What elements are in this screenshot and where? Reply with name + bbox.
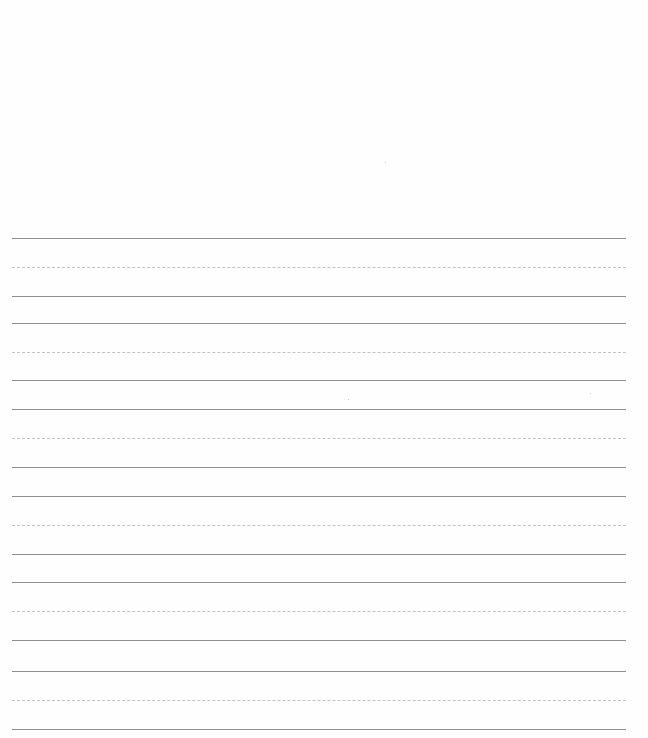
top-line [12,409,626,410]
paper-speck [590,393,591,394]
paper-speck [385,162,386,163]
baseline [12,467,626,468]
baseline [12,296,626,297]
top-line [12,323,626,324]
practice-sheet [0,0,648,738]
midline-guide [12,611,626,612]
top-line [12,671,626,672]
baseline [12,380,626,381]
baseline [12,640,626,641]
midline-guide [12,267,626,268]
midline-guide [12,352,626,353]
midline-guide [12,438,626,439]
baseline [12,729,626,730]
top-line [12,496,626,497]
midline-guide [12,525,626,526]
top-line [12,582,626,583]
top-line [12,238,626,239]
baseline [12,554,626,555]
midline-guide [12,700,626,701]
paper-speck [348,399,349,400]
